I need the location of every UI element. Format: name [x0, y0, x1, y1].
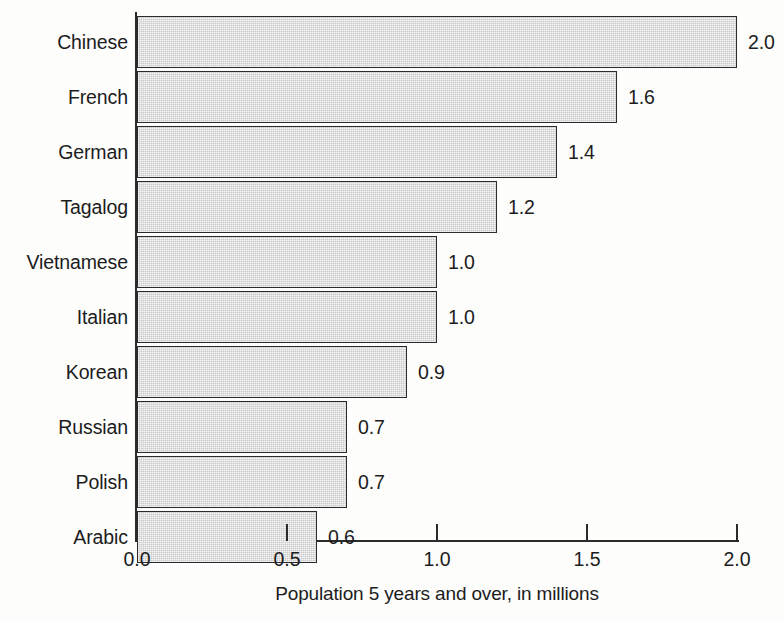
bar — [137, 401, 347, 453]
x-tick-label: 0.5 — [247, 548, 327, 571]
bar — [137, 126, 557, 178]
category-label: Korean — [0, 346, 128, 398]
bar-chart-figure: Chinese2.0French1.6German1.4Tagalog1.2Vi… — [0, 0, 783, 621]
bar — [137, 16, 737, 68]
x-tick-label: 2.0 — [697, 548, 777, 571]
bar-row: Chinese2.0 — [0, 16, 783, 68]
bar-row: Italian1.0 — [0, 291, 783, 343]
bar-row: Polish0.7 — [0, 456, 783, 508]
bar — [137, 181, 497, 233]
bar-row: Russian0.7 — [0, 401, 783, 453]
bar — [137, 291, 437, 343]
category-label: Chinese — [0, 16, 128, 68]
bar-value-label: 1.0 — [448, 236, 475, 288]
category-label: French — [0, 71, 128, 123]
bar — [137, 346, 407, 398]
category-label: Polish — [0, 456, 128, 508]
plot-area: Chinese2.0French1.6German1.4Tagalog1.2Vi… — [0, 0, 783, 621]
bar — [137, 456, 347, 508]
x-tick-mark — [736, 524, 738, 541]
bar — [137, 236, 437, 288]
bar-value-label: 1.6 — [628, 71, 655, 123]
bar-value-label: 1.4 — [568, 126, 595, 178]
bar-row: Korean0.9 — [0, 346, 783, 398]
x-tick-mark — [136, 524, 138, 541]
bar-value-label: 2.0 — [748, 16, 775, 68]
bar-value-label: 1.2 — [508, 181, 535, 233]
category-label: Russian — [0, 401, 128, 453]
x-tick-label: 0.0 — [97, 548, 177, 571]
x-tick-label: 1.5 — [547, 548, 627, 571]
bar-row: Tagalog1.2 — [0, 181, 783, 233]
bar-row: Vietnamese1.0 — [0, 236, 783, 288]
category-label: Italian — [0, 291, 128, 343]
bar-row: German1.4 — [0, 126, 783, 178]
bar — [137, 71, 617, 123]
x-tick-mark — [286, 524, 288, 541]
bar-value-label: 0.7 — [358, 401, 385, 453]
bar-row: French1.6 — [0, 71, 783, 123]
x-tick-mark — [586, 524, 588, 541]
category-label: Vietnamese — [0, 236, 128, 288]
bar-value-label: 1.0 — [448, 291, 475, 343]
x-tick-label: 1.0 — [397, 548, 477, 571]
category-label: Tagalog — [0, 181, 128, 233]
bar-value-label: 0.6 — [328, 511, 355, 563]
bar-value-label: 0.7 — [358, 456, 385, 508]
x-tick-mark — [436, 524, 438, 541]
category-label: German — [0, 126, 128, 178]
bar-value-label: 0.9 — [418, 346, 445, 398]
x-axis-title: Population 5 years and over, in millions — [137, 583, 737, 605]
